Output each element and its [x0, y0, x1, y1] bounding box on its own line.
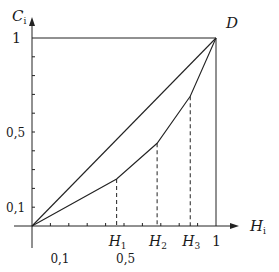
x-axis-title: Hi	[249, 217, 266, 236]
x-label-h1-sub: 1	[121, 241, 127, 251]
x-label-h1-main: H	[108, 233, 122, 249]
x-label-h3-sub: 3	[194, 241, 200, 251]
y-axis-title: Ci	[12, 7, 26, 26]
x-axis-arrow-icon	[230, 223, 239, 229]
y-tick-label: 1	[12, 30, 21, 46]
point-d-label-main: D	[225, 14, 238, 32]
diagram-canvas: H1H2H30,10,510,10,51CiHiD	[0, 0, 279, 272]
x-tick-label-main: 1	[212, 233, 221, 249]
x-tick-label: 1	[212, 233, 221, 249]
x-tick-label-main: 0,1	[50, 252, 69, 266]
x-label-h2-main: H	[148, 233, 162, 249]
y-tick-label-main: 0,5	[6, 126, 25, 140]
point-d-label: D	[225, 14, 238, 32]
x-tick-label-main: 0,5	[116, 252, 135, 266]
equality-diagonal-line	[32, 38, 216, 226]
x-tick-label: 0,5	[116, 252, 135, 266]
axes	[14, 17, 239, 248]
x-axis-title-sub: i	[263, 226, 266, 236]
y-tick-label: 0,5	[6, 126, 25, 140]
y-axis-title-main: C	[12, 7, 24, 25]
x-label-h3-main: H	[181, 233, 195, 249]
x-label-h3: H3	[181, 233, 200, 251]
labels: H1H2H30,10,510,10,51CiHiD	[6, 7, 266, 266]
y-axis-title-sub: i	[23, 16, 26, 26]
marks	[32, 38, 216, 226]
x-label-h2-sub: 2	[161, 241, 167, 251]
y-tick-label-main: 1	[12, 30, 21, 46]
y-tick-label-main: 0,1	[6, 201, 25, 215]
y-axis-arrow-icon	[29, 17, 35, 26]
y-tick-label: 0,1	[6, 201, 25, 215]
x-label-h1: H1	[108, 233, 127, 251]
x-tick-label: 0,1	[50, 252, 69, 266]
x-label-h2: H2	[148, 233, 167, 251]
x-axis-title-main: H	[249, 217, 264, 235]
